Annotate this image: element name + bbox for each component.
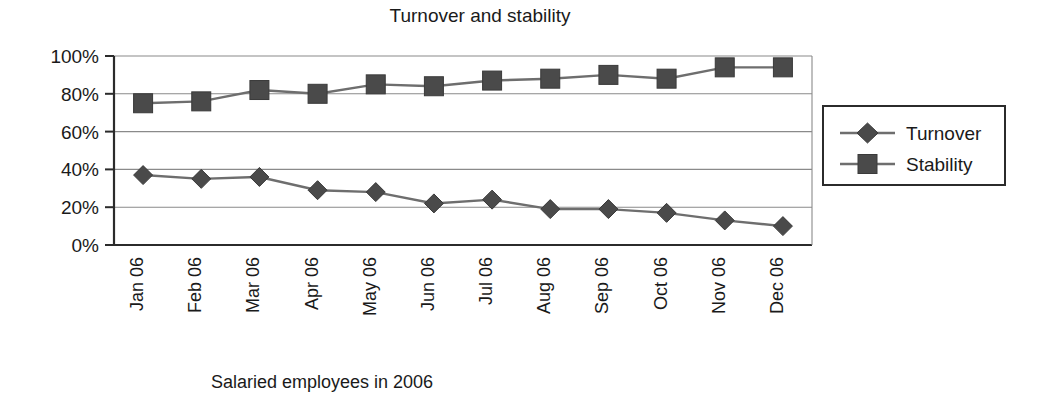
y-tick-label-0: 0% bbox=[72, 235, 100, 256]
x-tick-label-dec-06: Dec 06 bbox=[767, 257, 787, 314]
data-point-stability-jan-06 bbox=[134, 94, 153, 113]
y-tick-marks bbox=[105, 56, 114, 245]
data-point-turnover-may-06 bbox=[366, 183, 385, 202]
chart-figure: Turnover and stability 100% 80% bbox=[0, 0, 1044, 416]
gridlines bbox=[114, 56, 812, 207]
square-icon bbox=[858, 155, 877, 174]
y-tick-label-100: 100% bbox=[50, 46, 99, 67]
data-point-stability-apr-06 bbox=[308, 84, 327, 103]
data-point-stability-jun-06 bbox=[424, 77, 443, 96]
data-point-stability-mar-06 bbox=[250, 81, 269, 100]
x-tick-labels: Jan 06Feb 06Mar 06Apr 06May 06Jun 06Jul … bbox=[127, 257, 787, 316]
turnover-stability-line-chart: Turnover and stability 100% 80% bbox=[0, 0, 1044, 416]
legend-label-stability[interactable]: Stability bbox=[906, 154, 973, 175]
x-tick-label-jan-06: Jan 06 bbox=[127, 257, 147, 311]
data-point-stability-may-06 bbox=[366, 75, 385, 94]
data-point-stability-dec-06 bbox=[773, 58, 792, 77]
y-tick-label-60: 60% bbox=[61, 122, 99, 143]
data-point-turnover-feb-06 bbox=[192, 169, 211, 188]
series-stability bbox=[134, 58, 793, 113]
x-tick-label-nov-06: Nov 06 bbox=[709, 257, 729, 314]
x-tick-label-apr-06: Apr 06 bbox=[302, 257, 322, 310]
series-line-stability bbox=[143, 67, 783, 103]
data-point-stability-feb-06 bbox=[192, 92, 211, 111]
data-point-turnover-sep-06 bbox=[599, 200, 618, 219]
data-point-turnover-aug-06 bbox=[541, 200, 560, 219]
y-tick-labels: 100% 80% 60% 40% 20% 0% bbox=[50, 46, 99, 256]
data-point-stability-oct-06 bbox=[657, 69, 676, 88]
x-tick-label-jun-06: Jun 06 bbox=[418, 257, 438, 311]
y-tick-label-40: 40% bbox=[61, 159, 99, 180]
x-tick-label-mar-06: Mar 06 bbox=[243, 257, 263, 313]
data-point-stability-jul-06 bbox=[483, 71, 502, 90]
data-point-turnover-nov-06 bbox=[715, 211, 734, 230]
data-point-turnover-oct-06 bbox=[657, 203, 676, 222]
chart-title: Turnover and stability bbox=[390, 5, 571, 26]
x-tick-label-aug-06: Aug 06 bbox=[534, 257, 554, 314]
y-tick-label-20: 20% bbox=[61, 197, 99, 218]
x-axis-title: Salaried employees in 2006 bbox=[211, 372, 433, 392]
data-point-turnover-mar-06 bbox=[250, 167, 269, 186]
series-line-turnover bbox=[143, 175, 783, 226]
y-tick-label-80: 80% bbox=[61, 84, 99, 105]
x-tick-label-oct-06: Oct 06 bbox=[651, 257, 671, 310]
data-point-stability-aug-06 bbox=[541, 69, 560, 88]
legend-label-turnover[interactable]: Turnover bbox=[906, 123, 982, 144]
data-point-turnover-jun-06 bbox=[424, 194, 443, 213]
x-tick-label-jul-06: Jul 06 bbox=[476, 257, 496, 305]
series-turnover bbox=[134, 166, 793, 236]
data-point-turnover-apr-06 bbox=[308, 181, 327, 200]
data-point-turnover-dec-06 bbox=[773, 217, 792, 236]
x-tick-label-may-06: May 06 bbox=[360, 257, 380, 316]
legend: Turnover Stability bbox=[823, 106, 1005, 185]
data-point-stability-sep-06 bbox=[599, 65, 618, 84]
x-tick-label-feb-06: Feb 06 bbox=[185, 257, 205, 313]
data-point-stability-nov-06 bbox=[715, 58, 734, 77]
data-point-turnover-jan-06 bbox=[134, 166, 153, 185]
x-tick-label-sep-06: Sep 06 bbox=[592, 257, 612, 314]
data-point-turnover-jul-06 bbox=[483, 190, 502, 209]
